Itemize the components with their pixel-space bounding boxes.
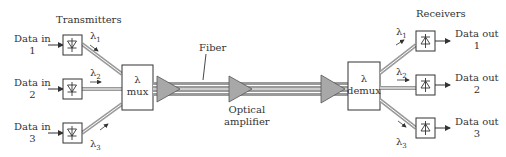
data-out-3: Data out3 xyxy=(455,116,499,140)
lambda1-rx-arrow xyxy=(396,40,404,45)
data-out-1: Data out1 xyxy=(455,28,499,52)
lambda-2-rx: λ2 xyxy=(396,66,407,80)
receiver-3 xyxy=(416,118,435,138)
demux-label: λdemux xyxy=(345,73,383,97)
rx-fibers xyxy=(380,45,416,128)
receiver-1 xyxy=(416,31,435,51)
lambda-3-tx: λ3 xyxy=(90,138,101,152)
transmitter-3 xyxy=(63,123,82,143)
receiver-2 xyxy=(416,75,435,95)
lambda-1-tx: λ1 xyxy=(90,30,101,44)
tx-fibers xyxy=(82,44,122,133)
mux-label: λmux xyxy=(122,74,153,98)
lambda-3-rx: λ3 xyxy=(396,136,407,150)
lambda-2-tx: λ2 xyxy=(90,67,101,81)
amplifier-label: Opticalamplifier xyxy=(224,104,270,128)
amplifier-3 xyxy=(321,75,345,103)
transmitter-2 xyxy=(63,79,82,99)
transmitter-1 xyxy=(63,35,82,55)
fiber-label: Fiber xyxy=(199,42,226,54)
lambda3-rx-arrow xyxy=(398,121,406,127)
amplifier-1 xyxy=(157,76,180,102)
data-out-2: Data out2 xyxy=(455,72,499,96)
lambda3-tx-arrow xyxy=(100,124,108,130)
data-in-3: Data in3 xyxy=(14,121,51,145)
lambda-1-rx: λ1 xyxy=(396,26,407,40)
transmitters-label: Transmitters xyxy=(56,14,122,26)
receivers-label: Receivers xyxy=(416,8,466,20)
fiber-leader xyxy=(203,54,206,80)
data-in-2: Data in2 xyxy=(14,77,51,101)
amplifier-2 xyxy=(229,76,252,102)
data-in-1: Data in1 xyxy=(14,33,51,57)
